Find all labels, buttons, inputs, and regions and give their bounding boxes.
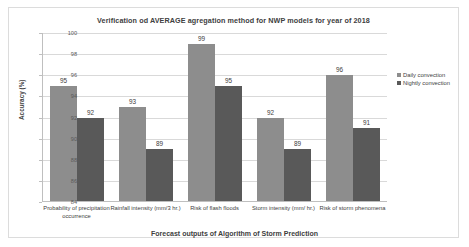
bar[interactable]: [119, 107, 146, 201]
bar-group: 9289: [249, 33, 318, 201]
y-axis-tick-label: 86: [53, 178, 77, 184]
y-axis-tick-label: 92: [53, 115, 77, 121]
x-axis-category-label: Risk of storm phenomena: [310, 205, 396, 213]
bar-group: 9389: [111, 33, 180, 201]
bar-value-label: 91: [353, 119, 380, 126]
bar[interactable]: [257, 118, 284, 202]
bar-value-label: 93: [119, 98, 146, 105]
legend-label: Daily convection: [403, 72, 445, 78]
bar-value-label: 99: [188, 35, 215, 42]
bar[interactable]: [215, 86, 242, 201]
y-axis-tick-mark: [39, 202, 42, 203]
bar-value-label: 95: [215, 77, 242, 84]
bar-value-label: 92: [257, 109, 284, 116]
bar-value-label: 89: [284, 140, 311, 147]
legend-label: Nightly convection: [403, 80, 450, 86]
bar-value-label: 92: [77, 109, 104, 116]
plot-area: 95929389999592899691: [42, 33, 387, 202]
y-axis-tick-label: 100: [53, 30, 77, 36]
y-axis-tick-label: 90: [53, 136, 77, 142]
bar-value-label: 89: [146, 140, 173, 147]
legend-swatch-icon: [397, 73, 401, 77]
y-axis-tick-label: 88: [53, 157, 77, 163]
legend-item[interactable]: Nightly convection: [397, 80, 469, 86]
bar[interactable]: [326, 75, 353, 201]
x-axis-line: [42, 201, 387, 202]
y-axis-tick-label: 94: [53, 93, 77, 99]
bar-group: 9691: [318, 33, 387, 201]
chart-legend: Daily convectionNightly convection: [397, 72, 469, 88]
bar[interactable]: [284, 149, 311, 201]
legend-item[interactable]: Daily convection: [397, 72, 469, 78]
bar[interactable]: [77, 118, 104, 202]
bar-group: 9995: [180, 33, 249, 201]
bar[interactable]: [146, 149, 173, 201]
chart-container: Verification od AVERAGE agregation metho…: [8, 7, 459, 238]
y-axis-tick-label: 98: [53, 51, 77, 57]
y-axis-title: Accuracy (%): [18, 80, 25, 121]
y-axis-tick-label: 96: [53, 72, 77, 78]
x-axis-title: Forecast outputs of Algorithm of Storm P…: [9, 230, 460, 237]
bar-value-label: 96: [326, 66, 353, 73]
bar[interactable]: [188, 44, 215, 201]
chart-title: Verification od AVERAGE agregation metho…: [9, 16, 458, 25]
legend-swatch-icon: [397, 81, 401, 85]
bar[interactable]: [353, 128, 380, 201]
